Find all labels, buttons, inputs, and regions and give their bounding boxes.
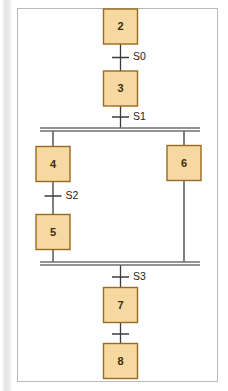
transition-s0: S0 [112,50,146,62]
step-6-label: 6 [181,157,187,169]
step-7: 7 [104,288,138,323]
transition-s2: S2 [45,189,79,201]
transition-s3-label: S3 [133,270,146,282]
sfc-canvas: S0 S1 S2 S3 2 3 4 [0,0,228,391]
sfc-diagram-page: S0 S1 S2 S3 2 3 4 [0,0,228,391]
step-8-label: 8 [117,355,123,367]
step-4-label: 4 [50,158,57,170]
step-3: 3 [104,71,138,106]
transition-s0-label: S0 [133,50,146,62]
transition-s1-label: S1 [133,110,146,122]
step-4: 4 [36,147,70,182]
step-6: 6 [167,146,201,181]
step-2: 2 [104,9,138,44]
transition-s2-label: S2 [66,189,79,201]
step-3-label: 3 [117,82,123,94]
transition-s1: S1 [112,110,146,122]
step-8: 8 [104,344,138,379]
step-7-label: 7 [117,299,123,311]
parallel-join-bar [40,262,200,265]
transition-s3: S3 [112,270,146,282]
step-5-label: 5 [50,226,56,238]
step-5: 5 [36,215,70,250]
step-2-label: 2 [117,20,123,32]
parallel-split-bar [40,128,200,131]
